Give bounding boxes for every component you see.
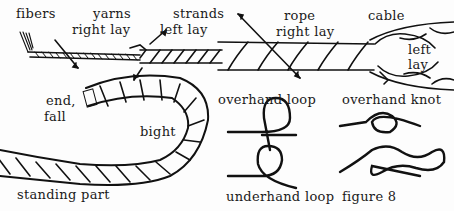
label-strands: strands — [173, 7, 224, 21]
label-underhand-loop: underhand loop — [226, 190, 334, 204]
label-fibers: fibers — [16, 7, 56, 21]
label-strands-lay: left lay — [160, 23, 208, 37]
label-cable: cable — [368, 9, 405, 23]
label-overhand-knot: overhand knot — [342, 93, 441, 107]
label-rope-lay: right lay — [276, 25, 334, 39]
rope-anatomy-diagram: fibers yarns right lay strands left lay … — [0, 0, 454, 211]
label-bight: bight — [140, 125, 176, 139]
label-yarns: yarns — [93, 7, 131, 21]
label-rope: rope — [284, 9, 315, 23]
label-end: end, — [46, 94, 76, 108]
label-cable-lay-1: left — [408, 43, 431, 57]
label-fall: fall — [44, 110, 66, 124]
label-cable-lay-2: lay — [408, 58, 428, 72]
label-overhand-loop: overhand loop — [218, 93, 316, 107]
label-standing-part: standing part — [17, 188, 110, 202]
label-yarns-lay: right lay — [72, 23, 130, 37]
label-figure-8: figure 8 — [342, 190, 396, 204]
